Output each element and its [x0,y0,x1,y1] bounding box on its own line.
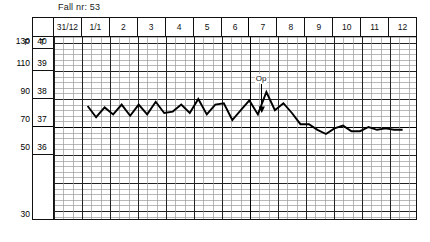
date-header-cell: 2 [110,18,138,36]
date-header-cells: 31/121/123456789101112 [54,18,416,36]
grid-and-curve [54,37,416,219]
page-title: Fall nr: 53 [58,2,100,12]
date-header-cell: 31/12 [54,18,82,36]
date-header-cell: 4 [166,18,194,36]
date-header-cell: 9 [305,18,333,36]
y-tick-label-p: 70 [8,114,30,124]
date-header-cell: 5 [194,18,222,36]
date-header-cell: 8 [277,18,305,36]
header-corner-cell [33,18,54,36]
y-tick-label-t: 39 [32,58,52,68]
y-tick-label-t: 37 [32,114,52,124]
op-annotation-label: Op [255,74,268,83]
scale-band: 30 [33,155,53,221]
chart-root: Fall nr: 53 31/121/123456789101112 P T 1… [0,0,430,242]
chart-frame: 31/121/123456789101112 P T 1304011039903… [32,17,417,220]
date-header-cell: 10 [333,18,361,36]
y-tick-label-p: 130 [8,36,30,46]
date-header-cell: 7 [249,18,277,36]
date-header-cell: 11 [361,18,389,36]
y-tick-label-p: 110 [8,58,30,68]
y-tick-label-p: 50 [8,142,30,152]
scale-band: 5036 [33,127,53,155]
scale-band: 9038 [33,71,53,99]
date-header-cell: 12 [389,18,416,36]
date-header-row: 31/121/123456789101112 [33,18,416,37]
y-tick-label-t: 38 [32,86,52,96]
y-tick-label-t: 36 [32,142,52,152]
scale-band: 11039 [33,43,53,71]
y-tick-label-p: 30 [8,209,30,219]
date-header-cell: 3 [138,18,166,36]
plot-area [54,37,416,219]
scale-band: 7037 [33,99,53,127]
y-axis-scale-column: P T 130401103990387037503630 [33,37,54,219]
date-header-cell: 6 [222,18,250,36]
y-tick-label-p: 90 [8,86,30,96]
date-header-cell: 1/1 [82,18,110,36]
